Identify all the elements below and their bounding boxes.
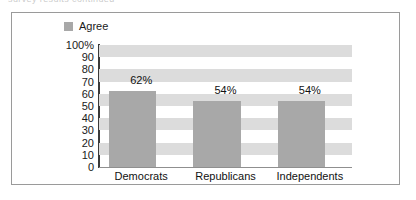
y-axis-tick-label: 70 [82, 76, 94, 87]
bar-slot: 62% [99, 45, 183, 167]
chart-legend: Agree [64, 21, 108, 32]
y-axis-tick-label: 40 [82, 113, 94, 124]
y-axis-tick-label: 60 [82, 88, 94, 99]
y-axis-tick-label: 20 [82, 137, 94, 148]
bar-slot: 54% [268, 45, 352, 167]
y-axis-tick-label: 30 [82, 125, 94, 136]
y-axis-tick-label: 90 [82, 52, 94, 63]
bar [193, 101, 240, 167]
plot-area: 62%54%54% [99, 45, 352, 167]
x-axis-category-label: Democrats [99, 170, 183, 183]
y-axis-tick-label: 100% [66, 40, 94, 51]
legend-label-agree: Agree [79, 21, 108, 32]
y-axis-tick-label: 80 [82, 64, 94, 75]
x-axis-category-label: Independents [268, 170, 352, 183]
bar-value-label: 54% [183, 85, 267, 96]
bar-value-label: 62% [99, 75, 183, 86]
bar-series-agree: 62%54%54% [99, 45, 352, 167]
bar [278, 101, 325, 167]
y-axis-tick-label: 50 [82, 101, 94, 112]
x-axis-category-label: Republicans [183, 170, 267, 183]
y-axis-tick-labels: 100%9080706050403020100 [55, 45, 96, 167]
legend-swatch-agree [64, 22, 73, 31]
chart-screenshot: survey results continued Agree 100%90807… [0, 0, 416, 200]
x-axis-category-labels: DemocratsRepublicansIndependents [99, 170, 352, 186]
y-axis-tick-label: 0 [88, 162, 94, 173]
bar-value-label: 54% [268, 85, 352, 96]
bar [109, 91, 156, 167]
y-axis-tick-label: 10 [82, 149, 94, 160]
bar-slot: 54% [183, 45, 267, 167]
clipped-header-text: survey results continued [8, 0, 158, 4]
x-axis-line [99, 167, 352, 168]
